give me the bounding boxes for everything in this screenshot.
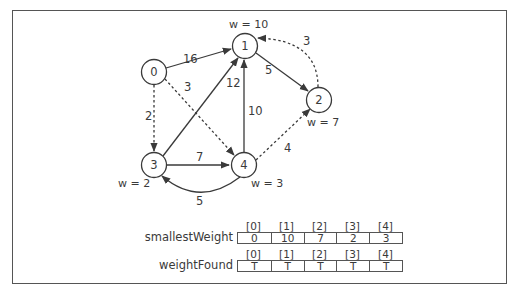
array-cell: 0	[238, 233, 271, 243]
array-index: [1]	[270, 248, 303, 260]
smallest-weight-indices: [0] [1] [2] [3] [4]	[237, 220, 402, 232]
array-index: [0]	[237, 220, 270, 232]
node-label: 2	[315, 93, 322, 107]
array-index: [3]	[336, 220, 369, 232]
node-weight-2: w = 7	[307, 116, 339, 129]
array-cell: T	[304, 261, 337, 271]
array-index: [4]	[369, 248, 402, 260]
edge-weight-4-3: 5	[196, 194, 203, 208]
edge-1-2	[256, 53, 308, 91]
array-cell: 3	[369, 233, 402, 243]
node-1: 1	[233, 34, 258, 59]
array-index: [4]	[369, 220, 402, 232]
weight-found-label: weightFound	[103, 258, 233, 272]
node-weight-3: w = 2	[118, 177, 150, 190]
edge-3-1	[163, 58, 238, 156]
edge-weight-4-1: 10	[248, 104, 263, 118]
node-3: 3	[142, 153, 167, 178]
array-index: [2]	[303, 248, 336, 260]
edge-weight-2-1: 3	[303, 34, 310, 48]
weight-found-indices: [0] [1] [2] [3] [4]	[237, 248, 402, 260]
node-label: 0	[150, 65, 157, 79]
node-0: 0	[142, 60, 167, 85]
array-cell: T	[271, 261, 304, 271]
array-index: [0]	[237, 248, 270, 260]
edge-weight-3-1: 12	[226, 76, 241, 90]
edge-0-1	[166, 49, 231, 68]
edge-weight-1-2: 5	[265, 63, 272, 77]
node-label: 1	[241, 39, 248, 53]
node-weight-4: w = 3	[251, 177, 283, 190]
array-cell: 10	[271, 233, 304, 243]
weight-found-array: T T T T T	[237, 260, 403, 272]
array-index: [2]	[303, 220, 336, 232]
array-index: [1]	[270, 220, 303, 232]
node-weight-1: w = 10	[229, 18, 268, 31]
node-2: 2	[307, 88, 332, 113]
edge-weight-0-3: 2	[145, 109, 152, 123]
node-label: 4	[240, 158, 247, 172]
edge-weight-0-1: 16	[183, 52, 198, 66]
node-label: 3	[150, 158, 157, 172]
array-cell: 2	[336, 233, 369, 243]
node-4: 4	[232, 153, 257, 178]
array-cell: T	[238, 261, 271, 271]
edge-weight-3-4: 7	[196, 150, 203, 164]
array-cell: T	[369, 261, 402, 271]
smallest-weight-label: smallestWeight	[103, 230, 233, 244]
edge-4-2	[256, 109, 310, 160]
array-cell: T	[336, 261, 369, 271]
array-cell: 7	[304, 233, 337, 243]
edge-0-4	[165, 79, 234, 155]
smallest-weight-array: 0 10 7 2 3	[237, 232, 403, 244]
edge-weight-4-2: 4	[284, 141, 291, 155]
array-index: [3]	[336, 248, 369, 260]
edge-weight-0-4: 3	[184, 80, 191, 94]
edge-4-3	[162, 176, 240, 192]
